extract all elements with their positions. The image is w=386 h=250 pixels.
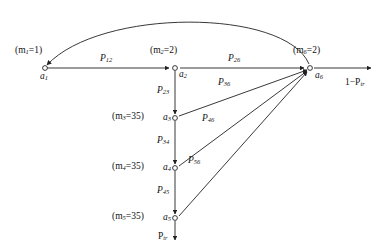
- node-a3: [173, 116, 178, 121]
- mass-label-a2: (m2=2): [150, 46, 177, 56]
- edge-a6-a1-feedback: [47, 22, 309, 65]
- flow-label-exit-bottom: Ptr: [158, 232, 168, 242]
- mass-label-a5: (m5=35): [112, 212, 144, 222]
- figure-canvas: (m1=1) (m2=2) (m3=35) (m4=35) (m5=35) (m…: [0, 0, 386, 250]
- mass-label-a4: (m4=35): [112, 162, 144, 172]
- edge-label-P56: P56: [188, 156, 200, 166]
- edge-label-P36: P36: [218, 78, 230, 88]
- edge-label-P46: P46: [202, 114, 214, 124]
- edge-label-P12: P12: [100, 54, 112, 64]
- node-label-a4: a4: [163, 163, 171, 173]
- node-a6: [308, 66, 313, 71]
- mass-label-a3: (m3=35): [112, 112, 144, 122]
- edge-label-P34: P34: [157, 136, 169, 146]
- node-a5: [173, 216, 178, 221]
- edge-a5-a6: [179, 72, 307, 216]
- edge-label-P23: P23: [157, 86, 169, 96]
- node-label-a1: a1: [40, 72, 48, 82]
- node-label-a2: a2: [179, 70, 187, 80]
- node-label-a5: a5: [163, 213, 171, 223]
- node-a4: [173, 166, 178, 171]
- flow-label-exit-right: 1−Ptr: [345, 78, 365, 88]
- edge-a4-a6: [179, 71, 307, 166]
- node-label-a3: a3: [163, 113, 171, 123]
- node-a2: [173, 66, 178, 71]
- diagram-svg: [0, 0, 386, 250]
- edge-label-P26: P26: [228, 54, 240, 64]
- mass-label-a1: (m1=1): [15, 46, 42, 56]
- node-label-a6: a6: [315, 71, 323, 81]
- mass-label-a6: (m6=2): [293, 46, 320, 56]
- edge-label-P45: P45: [157, 186, 169, 196]
- node-a1: [43, 66, 48, 71]
